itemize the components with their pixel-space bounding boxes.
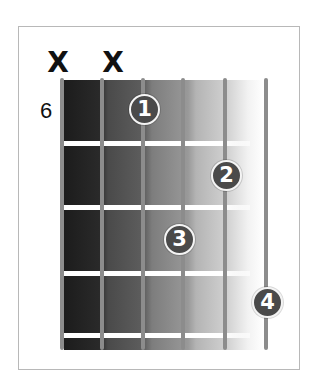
string-3 [181, 78, 185, 350]
finger-dot-4: 4 [252, 287, 283, 318]
mute-marker-string-5: X [100, 50, 126, 76]
finger-dot-1: 1 [129, 94, 160, 125]
string-2 [223, 78, 227, 350]
finger-dot-3: 3 [164, 224, 195, 255]
finger-dot-2: 2 [211, 160, 242, 191]
starting-fret-label: 6 [37, 98, 55, 124]
fretboard-background [64, 80, 264, 350]
mute-marker-string-6: X [45, 50, 71, 76]
string-5 [100, 78, 104, 350]
string-6 [60, 78, 64, 350]
